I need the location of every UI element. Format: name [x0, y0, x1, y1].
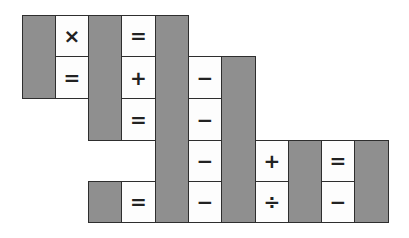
blocked-cell: [88, 181, 122, 223]
times-symbol: ×: [64, 26, 81, 46]
operator-cell[interactable]: +: [255, 140, 289, 182]
operator-cell[interactable]: =: [121, 98, 156, 141]
operator-cell[interactable]: =: [121, 181, 156, 223]
plus-symbol: +: [130, 68, 147, 88]
minus-symbol: −: [197, 192, 214, 212]
minus-symbol: −: [197, 68, 214, 88]
equals-symbol: =: [130, 26, 147, 46]
divide-symbol: ÷: [264, 192, 281, 212]
operator-cell[interactable]: −: [188, 181, 222, 223]
operator-cell[interactable]: −: [188, 56, 222, 99]
operator-cell[interactable]: ×: [55, 15, 89, 57]
operator-cell[interactable]: +: [121, 56, 156, 99]
operator-cell[interactable]: −: [188, 98, 222, 141]
equals-symbol: =: [330, 151, 347, 171]
equals-symbol: =: [130, 110, 147, 130]
blocked-cell: [88, 15, 122, 141]
blocked-cell: [354, 140, 389, 223]
operator-cell[interactable]: =: [121, 15, 156, 57]
equals-symbol: =: [64, 68, 81, 88]
minus-symbol: −: [197, 110, 214, 130]
operator-cell[interactable]: −: [188, 140, 222, 182]
operator-cell[interactable]: =: [55, 56, 89, 99]
operator-cell[interactable]: =: [321, 140, 355, 182]
equals-symbol: =: [130, 192, 147, 212]
plus-symbol: +: [264, 151, 281, 171]
minus-symbol: −: [197, 151, 214, 171]
minus-symbol: −: [330, 192, 347, 212]
puzzle-board: ×==+=−−−−+÷=−=: [0, 0, 409, 238]
blocked-cell: [288, 140, 322, 223]
operator-cell[interactable]: −: [321, 181, 355, 223]
blocked-cell: [155, 15, 189, 223]
blocked-cell: [22, 15, 56, 99]
blocked-cell: [221, 56, 256, 223]
operator-cell[interactable]: ÷: [255, 181, 289, 223]
